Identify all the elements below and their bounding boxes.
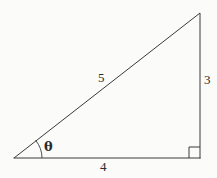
right-angle-square-icon xyxy=(189,147,200,158)
angle-arc xyxy=(36,140,42,158)
hypotenuse-label: 5 xyxy=(98,71,105,84)
theta-angle-label: θ xyxy=(44,140,53,153)
hypotenuse-line xyxy=(14,13,200,158)
adjacent-side-label: 4 xyxy=(100,160,107,173)
triangle-diagram: 5 3 4 θ xyxy=(0,0,217,178)
triangle-graphic xyxy=(0,0,217,178)
opposite-side-label: 3 xyxy=(204,73,211,86)
